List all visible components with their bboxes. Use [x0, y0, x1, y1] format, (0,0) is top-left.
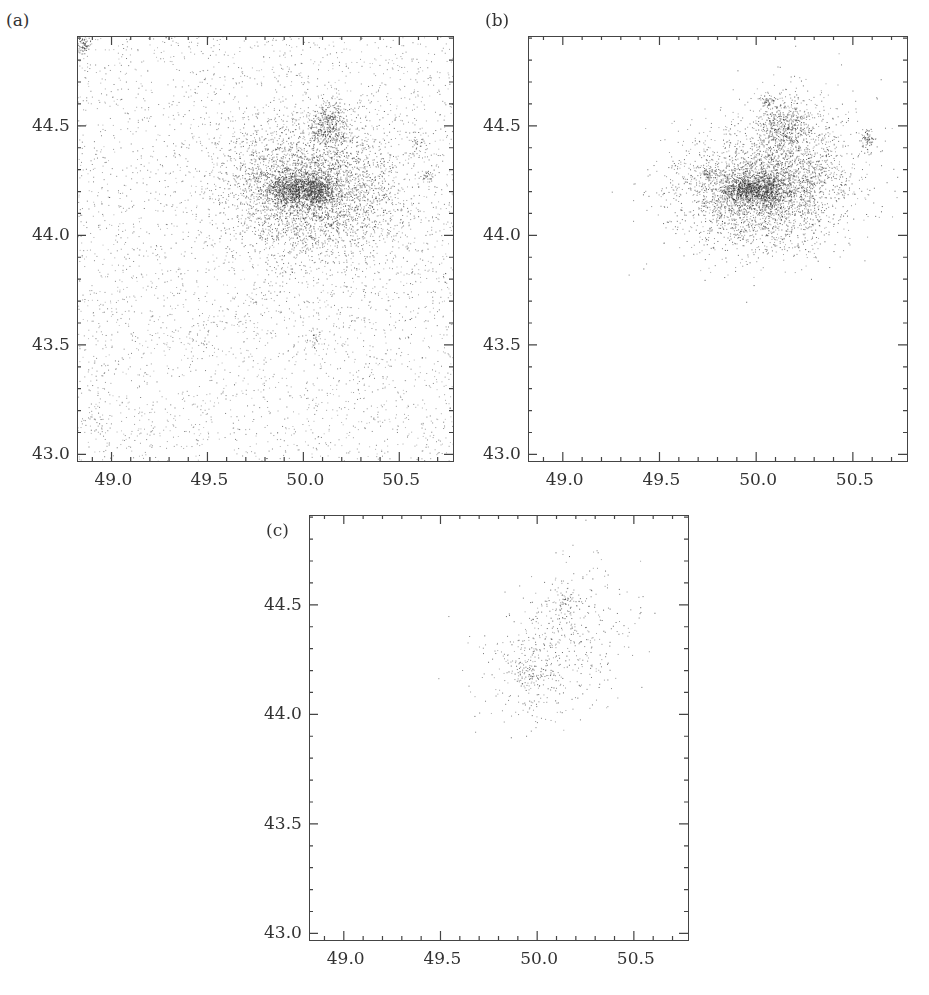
- panel-c: (c): [0, 0, 929, 995]
- x-tick-label: 50.0: [739, 471, 777, 488]
- x-tick-label: 49.5: [642, 471, 680, 488]
- y-tick-label: 43.0: [264, 924, 302, 941]
- x-tick-label: 50.5: [617, 950, 655, 967]
- y-tick-label: 43.0: [483, 445, 521, 462]
- x-tick-label: 49.0: [95, 471, 133, 488]
- y-tick-label: 44.5: [264, 596, 302, 613]
- y-tick-label: 43.5: [264, 815, 302, 832]
- y-tick-label: 44.0: [264, 705, 302, 722]
- x-tick-label: 50.5: [382, 471, 420, 488]
- scatter-plot-c: [309, 515, 688, 940]
- x-tick-label: 49.5: [190, 471, 228, 488]
- y-tick-label: 43.0: [32, 445, 70, 462]
- x-tick-label: 50.5: [836, 471, 874, 488]
- y-tick-label: 44.0: [483, 226, 521, 243]
- y-tick-label: 43.5: [483, 336, 521, 353]
- x-tick-label: 49.0: [327, 950, 365, 967]
- y-tick-label: 44.5: [32, 117, 70, 134]
- y-tick-label: 44.0: [32, 226, 70, 243]
- panel-label-c: (c): [266, 520, 289, 540]
- x-tick-label: 50.0: [520, 950, 558, 967]
- x-tick-label: 49.5: [423, 950, 461, 967]
- y-tick-label: 44.5: [483, 117, 521, 134]
- y-tick-label: 43.5: [32, 336, 70, 353]
- x-tick-label: 50.0: [286, 471, 324, 488]
- x-tick-label: 49.0: [546, 471, 584, 488]
